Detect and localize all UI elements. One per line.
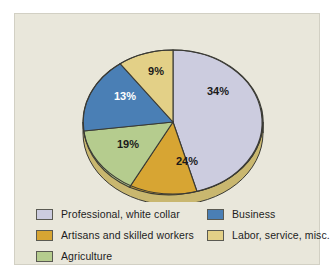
legend-label-professional-white-collar: Professional, white collar [61,208,180,220]
chart-figure: 34% 24% 19% 13% 9% Professional, white c… [0,0,335,280]
legend-column-right: Business Labor, service, misc. [207,204,327,246]
legend-item-business[interactable]: Business [207,204,327,224]
pie-chart: 34% 24% 19% 13% 9% [15,22,321,202]
legend-item-agriculture[interactable]: Agriculture [36,246,208,266]
pie-label-professional-white-collar: 34% [207,85,229,97]
legend-label-agriculture: Agriculture [61,250,112,262]
pie-label-business: 13% [114,90,136,102]
chart-panel: 34% 24% 19% 13% 9% Professional, white c… [14,13,320,265]
pie-label-labor-service-misc: 9% [148,65,164,77]
legend-swatch-artisans-skilled-workers [36,230,53,241]
legend-swatch-professional-white-collar [36,209,53,220]
legend-swatch-agriculture [36,251,53,262]
legend-label-artisans-skilled-workers: Artisans and skilled workers [61,229,194,241]
legend-item-labor-service-misc[interactable]: Labor, service, misc. [207,225,327,245]
chart-legend: Professional, white collar Artisans and … [29,204,321,266]
pie-label-artisans-skilled-workers: 24% [176,155,198,167]
pie-label-agriculture: 19% [117,138,139,150]
legend-label-labor-service-misc: Labor, service, misc. [232,229,330,241]
legend-item-artisans-skilled-workers[interactable]: Artisans and skilled workers [36,225,208,245]
legend-swatch-labor-service-misc [207,230,224,241]
legend-item-professional-white-collar[interactable]: Professional, white collar [36,204,208,224]
legend-label-business: Business [232,208,275,220]
legend-swatch-business [207,209,224,220]
pie-chart-svg: 34% 24% 19% 13% 9% [15,22,321,202]
legend-column-left: Professional, white collar Artisans and … [36,204,208,267]
